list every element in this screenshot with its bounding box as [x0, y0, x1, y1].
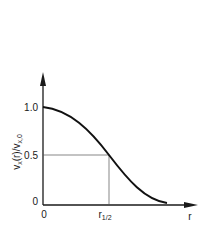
- y-axis-label: vx(r)/vx,0: [11, 134, 23, 170]
- y-axis-arrow-icon: [40, 72, 46, 86]
- x-tick-r-half: r1/2: [98, 209, 111, 221]
- chart-canvas: 1.0 0.5 0 0 r1/2 r vx(r)/vx,0: [0, 0, 209, 231]
- x-tick-0: 0: [41, 209, 47, 220]
- y-tick-1.0: 1.0: [24, 102, 38, 113]
- x-axis-arrow-icon: [184, 202, 198, 208]
- x-axis-label: r: [188, 211, 192, 222]
- y-tick-0.5: 0.5: [24, 150, 38, 161]
- y-tick-0: 0: [32, 196, 38, 207]
